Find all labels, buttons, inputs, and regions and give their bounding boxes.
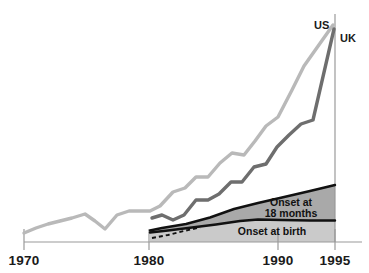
band-label-onset-18-months-line2: 18 months [265,207,318,219]
x-tick-label-1980: 1980 [134,253,165,268]
band-label-onset-at-birth: Onset at birth [238,225,306,237]
x-tick-label-1970: 1970 [9,253,40,268]
series-label-us: US [314,19,329,31]
line-chart: 1970 1980 1990 1995 US UK Onset at 18 mo… [0,0,369,273]
x-tick-label-1995: 1995 [320,253,351,268]
x-tick-label-1990: 1990 [263,253,294,268]
series-label-uk: UK [340,32,356,44]
chart-container: 1970 1980 1990 1995 US UK Onset at 18 mo… [0,0,369,273]
